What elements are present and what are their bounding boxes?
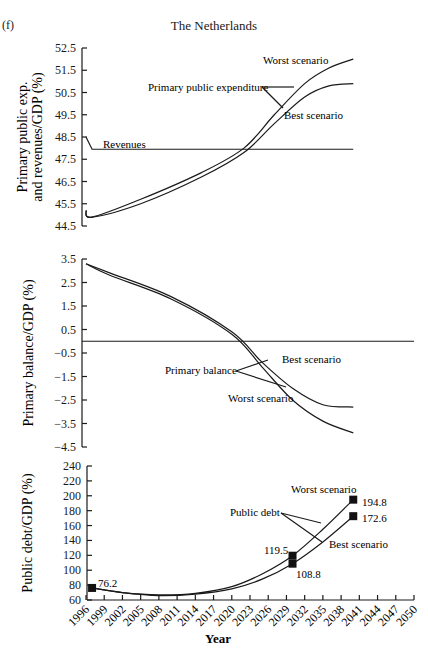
y-tick-label: 46.5 — [55, 175, 76, 189]
y-tick-label: 120 — [63, 548, 81, 562]
y-tick-label: −1.5 — [54, 370, 76, 384]
y-tick-label: 2.5 — [61, 276, 76, 290]
y-tick-label: 180 — [63, 504, 81, 518]
annotation-revenues: Revenues — [103, 138, 146, 150]
y-tick-label: 1.5 — [61, 299, 76, 313]
data-label-172-6: 172.6 — [362, 512, 387, 524]
y-axis-label: Public debt/GDP (%) — [20, 473, 36, 593]
y-tick-label: 52.5 — [55, 41, 76, 55]
y-tick-label: 200 — [63, 489, 81, 503]
data-marker — [289, 552, 297, 560]
y-tick-label: 48.5 — [55, 130, 76, 144]
series-line — [92, 516, 353, 595]
y-tick-label: 0.5 — [61, 323, 76, 337]
annotation-public-debt: Public debt — [230, 506, 280, 518]
series-line — [92, 500, 353, 595]
annotation-best-scenario: Best scenario — [329, 538, 388, 550]
annotation-primary-balance: Primary balance — [165, 364, 237, 376]
y-tick-label: 3.5 — [61, 252, 76, 266]
y-tick-label: 45.5 — [55, 197, 76, 211]
annotation-primary-public-expenditure: Primary public expenditure — [148, 81, 268, 93]
y-tick-label: 220 — [63, 474, 81, 488]
data-label-108-8: 108.8 — [296, 568, 321, 580]
y-tick-label: 50.5 — [55, 86, 76, 100]
y-tick-label: −4.5 — [54, 440, 76, 454]
data-label-194-8: 194.8 — [362, 496, 387, 508]
data-marker — [289, 560, 297, 568]
arrow-line — [236, 371, 286, 387]
x-tick-label: 2050 — [393, 602, 420, 629]
y-tick-label: 160 — [63, 519, 81, 533]
y-axis-label: Primary public exp. — [15, 82, 30, 193]
y-tick-label: 140 — [63, 533, 81, 547]
y-tick-label: −0.5 — [54, 346, 76, 360]
series-line — [86, 264, 353, 433]
chart-canvas: 52.551.550.549.548.547.546.545.544.5Prim… — [0, 0, 428, 656]
y-tick-label: 47.5 — [55, 152, 76, 166]
y-tick-label: 240 — [63, 459, 81, 473]
y-tick-label: 44.5 — [55, 219, 76, 233]
x-axis-label: Year — [205, 631, 231, 646]
arrow-line — [281, 513, 321, 523]
data-marker — [349, 496, 357, 504]
arrow-line — [236, 360, 268, 371]
annotation-worst-scenario: Worst scenario — [291, 483, 357, 495]
y-tick-label: −2.5 — [54, 393, 76, 407]
y-tick-label: 49.5 — [55, 108, 76, 122]
arrow-line — [281, 513, 322, 542]
y-tick-label: 80 — [69, 578, 81, 592]
y-axis-label: and revenues/GDP (%) — [30, 72, 46, 202]
series-line — [86, 264, 353, 407]
annotation-worst-scenario: Worst scenario — [228, 392, 294, 404]
data-label-76-2: 76.2 — [98, 577, 117, 589]
annotation-worst-scenario: Worst scenario — [263, 54, 329, 66]
data-marker — [88, 584, 96, 592]
annotation-best-scenario: Best scenario — [282, 353, 341, 365]
arrow-line — [262, 87, 283, 108]
y-tick-label: −3.5 — [54, 417, 76, 431]
annotation-best-scenario: Best scenario — [284, 109, 343, 121]
series-line — [86, 84, 353, 218]
y-tick-label: 51.5 — [55, 63, 76, 77]
data-marker — [349, 512, 357, 520]
y-tick-label: 100 — [63, 563, 81, 577]
data-label-119-5: 119.5 — [264, 544, 289, 556]
y-axis-label: Primary balance/GDP (%) — [21, 279, 37, 427]
